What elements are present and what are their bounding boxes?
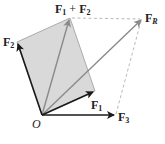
label-f1: F1 [91,98,102,113]
label-origin: O [32,117,41,131]
vector-addition-diagram: F1 + F2 FR F2 F1 F3 O [0,0,165,144]
label-f2: F2 [3,35,14,50]
dashed-line-sum-to-resultant [72,18,140,19]
label-fr: FR [145,11,158,26]
dashed-line-f3-to-resultant [116,21,141,114]
label-f3: F3 [118,110,129,125]
label-f1-plus-f2: F1 + F2 [55,2,90,17]
